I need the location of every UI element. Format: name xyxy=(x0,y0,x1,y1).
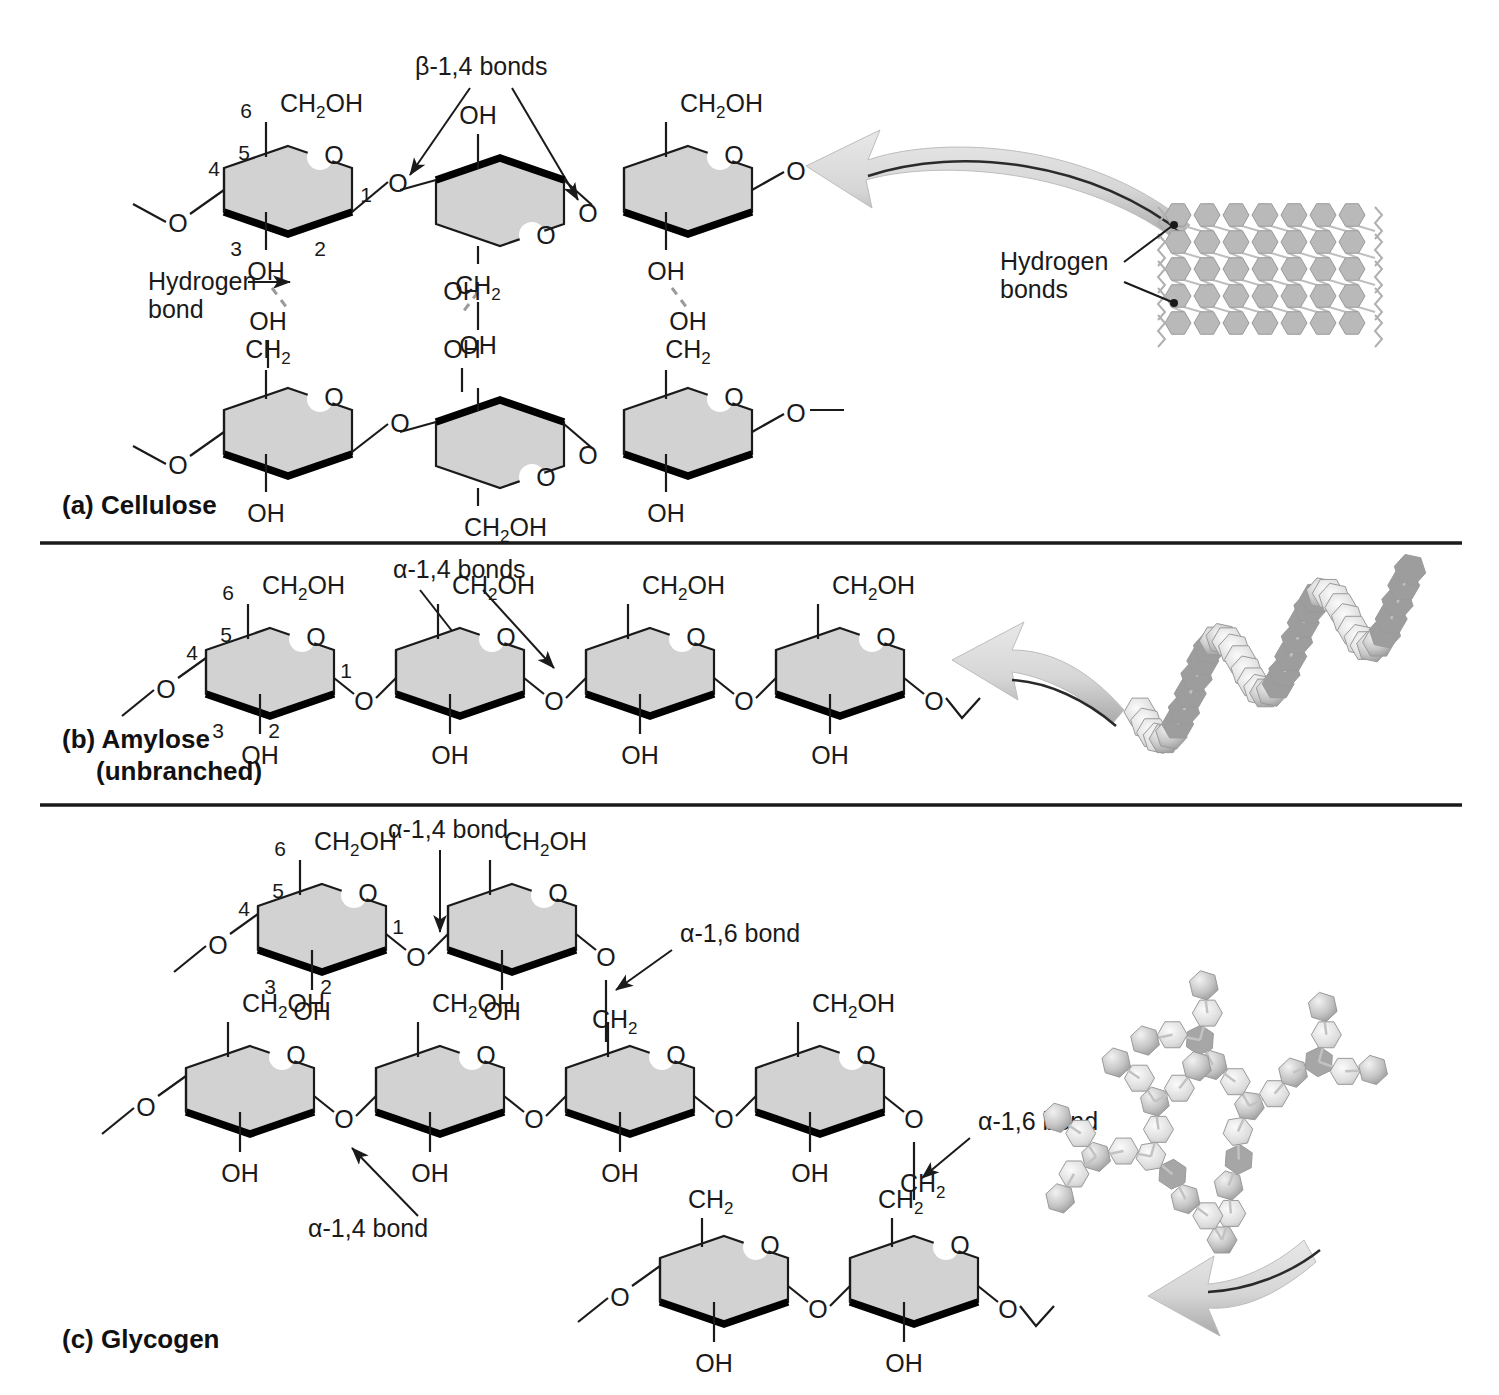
glycosidic-oxygen-3: O xyxy=(390,409,409,437)
c2-hydroxyl: OH xyxy=(601,1159,639,1187)
glycosidic-oxygen: O xyxy=(808,1295,827,1323)
c2-hydroxyl: OH xyxy=(621,741,659,769)
ring-oxygen: O xyxy=(496,623,515,651)
c2-hydroxyl: OH xyxy=(411,1159,449,1187)
ring-oxygen: O xyxy=(950,1231,969,1259)
ring-oxygen: O xyxy=(856,1041,875,1069)
branch-oxygen: O xyxy=(904,1105,923,1133)
ring-oxygen: O xyxy=(666,1041,685,1069)
glycosidic-oxygen: O xyxy=(714,1105,733,1133)
ring-number-6: 6 xyxy=(274,837,286,860)
ring-oxygen: O xyxy=(536,463,555,491)
c2-hydroxyl: OH xyxy=(811,741,849,769)
c4-oxygen: O xyxy=(136,1093,155,1121)
mid-hydroxyl-b: OH xyxy=(443,335,481,363)
ring-number-4: 4 xyxy=(186,641,198,664)
lower-hydroxyl-1: OH xyxy=(249,307,287,335)
c2-hydroxyl: OH xyxy=(221,1159,259,1187)
glycosidic-oxygen: O xyxy=(354,687,373,715)
ring-number-3: 3 xyxy=(212,719,224,742)
hydrogen-bond-callout-line2: bond xyxy=(148,295,204,323)
glycosidic-oxygen: O xyxy=(406,943,425,971)
ring-oxygen: O xyxy=(536,221,555,249)
c2-hydroxyl: OH xyxy=(791,1159,829,1187)
polysaccharide-figure: β-1,4 bonds CH2OH 6 5 4 3 2 1 O OH O O xyxy=(0,0,1499,1395)
ring-oxygen: O xyxy=(306,623,325,651)
model-hydrogen-bonds-line1: Hydrogen xyxy=(1000,247,1108,275)
ring-number-3: 3 xyxy=(230,237,242,260)
c4-oxygen: O xyxy=(156,675,175,703)
c3-hydroxyl: OH xyxy=(647,257,685,285)
ring-number-5: 5 xyxy=(238,141,250,164)
ring-oxygen: O xyxy=(686,623,705,651)
ring-number-4: 4 xyxy=(238,897,250,920)
c3-hydroxyl: OH xyxy=(247,499,285,527)
ring-oxygen: O xyxy=(286,1041,305,1069)
beta-1-4-bonds-label: β-1,4 bonds xyxy=(415,52,548,80)
c2-hydroxyl: OH xyxy=(431,741,469,769)
glycosidic-oxygen: O xyxy=(524,1105,543,1133)
c4-oxygen: O xyxy=(610,1283,629,1311)
mid-hydroxyl-a: OH xyxy=(443,277,481,305)
ring-number-1: 1 xyxy=(340,659,352,682)
terminal-oxygen: O xyxy=(998,1295,1017,1323)
ring-number-5: 5 xyxy=(272,879,284,902)
glycosidic-oxygen-4: O xyxy=(578,441,597,469)
hydrogen-bond-callout-line1: Hydrogen xyxy=(148,267,256,295)
alpha-1-4-bond-mid-label: α-1,4 bond xyxy=(308,1214,428,1242)
ring-oxygen: O xyxy=(324,141,343,169)
ring-number-6: 6 xyxy=(222,581,234,604)
ring-number-1: 1 xyxy=(392,915,404,938)
ring-number-5: 5 xyxy=(220,623,232,646)
figure-canvas: β-1,4 bonds CH2OH 6 5 4 3 2 1 O OH O O xyxy=(0,0,1499,1395)
c4-oxygen: O xyxy=(208,931,227,959)
ring-number-4: 4 xyxy=(208,157,220,180)
ring-number-2: 2 xyxy=(268,719,280,742)
c3-hydroxyl: OH xyxy=(647,499,685,527)
c2-hydroxyl: OH xyxy=(885,1349,923,1377)
glycosidic-oxygen: O xyxy=(334,1105,353,1133)
terminal-oxygen: O xyxy=(786,157,805,185)
panel-b-sublabel: (unbranched) xyxy=(96,756,262,786)
top-hydroxyl: OH xyxy=(459,101,497,129)
alpha-1-4-bond-top-label: α-1,4 bond xyxy=(388,815,508,843)
panel-b-label: (b) Amylose xyxy=(62,724,210,754)
lower-hydroxyl-3: OH xyxy=(669,307,707,335)
ring-oxygen: O xyxy=(724,383,743,411)
branch-oxygen: O xyxy=(596,943,615,971)
panel-c-label: (c) Glycogen xyxy=(62,1324,219,1354)
c2-hydroxyl: OH xyxy=(695,1349,733,1377)
ring-oxygen: O xyxy=(760,1231,779,1259)
glycosidic-oxygen: O xyxy=(544,687,563,715)
ring-number-2: 2 xyxy=(314,237,326,260)
alpha-1-6-bond-top-label: α-1,6 bond xyxy=(680,919,800,947)
ring-oxygen: O xyxy=(548,879,567,907)
glycosidic-oxygen-1: O xyxy=(388,169,407,197)
ring-oxygen: O xyxy=(358,879,377,907)
terminal-oxygen: O xyxy=(924,687,943,715)
terminal-oxygen: O xyxy=(786,399,805,427)
panel-a-label: (a) Cellulose xyxy=(62,490,217,520)
c4-oxygen: O xyxy=(168,451,187,479)
ring-oxygen: O xyxy=(476,1041,495,1069)
ring-number-6: 6 xyxy=(240,99,252,122)
ring-oxygen: O xyxy=(876,623,895,651)
glycosidic-oxygen-2: O xyxy=(578,199,597,227)
ring-oxygen: O xyxy=(324,383,343,411)
model-hydrogen-bonds-line2: bonds xyxy=(1000,275,1068,303)
glycosidic-oxygen: O xyxy=(734,687,753,715)
c4-oxygen: O xyxy=(168,209,187,237)
ring-oxygen: O xyxy=(724,141,743,169)
